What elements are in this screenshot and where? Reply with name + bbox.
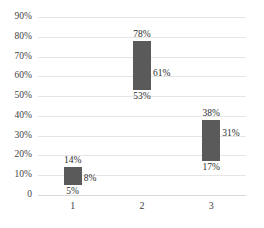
y-axis-tick-label: 20% xyxy=(0,151,32,161)
bar-low-value-label: 53% xyxy=(133,92,150,102)
y-axis-tick-label: 30% xyxy=(0,131,32,141)
bar xyxy=(64,167,82,185)
gridline xyxy=(38,17,246,18)
bar-high-value-label: 78% xyxy=(133,29,150,39)
bar xyxy=(202,120,220,162)
bar-mid-value-label: 8% xyxy=(84,174,97,184)
x-axis-tick-label: 3 xyxy=(191,201,231,211)
y-axis-tick-label: 10% xyxy=(0,170,32,180)
y-axis-tick-label: 0 xyxy=(0,190,32,200)
y-axis-tick-label: 60% xyxy=(0,72,32,82)
y-axis-tick-label: 80% xyxy=(0,32,32,42)
bar-low-value-label: 17% xyxy=(203,163,220,173)
bar-mid-value-label: 61% xyxy=(153,70,170,80)
x-axis-tick-label: 2 xyxy=(122,201,162,211)
x-axis-tick-label: 1 xyxy=(53,201,93,211)
plot-area: 14%5%8%78%53%61%38%17%31% xyxy=(38,17,246,195)
bar-high-value-label: 14% xyxy=(64,156,81,166)
y-axis-tick-label: 70% xyxy=(0,52,32,62)
bar-low-value-label: 5% xyxy=(66,187,79,197)
bar xyxy=(133,41,151,90)
y-axis-tick-label: 90% xyxy=(0,12,32,22)
bar-mid-value-label: 31% xyxy=(222,129,239,139)
bar-high-value-label: 38% xyxy=(203,108,220,118)
y-axis-tick-label: 40% xyxy=(0,111,32,121)
y-axis-tick-label: 50% xyxy=(0,91,32,101)
range-bar-chart: 010%20%30%40%50%60%70%80%90% 14%5%8%78%5… xyxy=(0,0,264,228)
